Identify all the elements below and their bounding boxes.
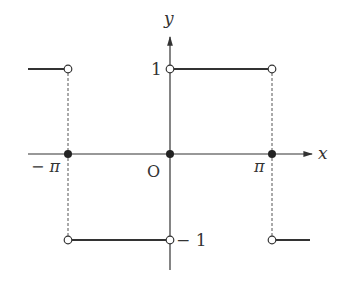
filled-point-pi-0 [268,150,276,158]
open-point-neg-pi-1 [64,65,72,73]
open-point-pi-1 [268,65,276,73]
y-axis-label: y [163,8,174,28]
tick-label-neg-pi: − π [31,157,60,176]
tick-label-one: 1 [151,59,162,79]
x-axis-label: x [318,143,328,163]
open-point-0-1 [166,65,174,73]
step-function-diagram: y x O 1 − 1 − π π [0,0,345,286]
open-point-0-neg1 [166,236,174,244]
open-point-pi-neg1 [268,236,276,244]
origin-label: O [147,162,160,181]
open-point-neg-pi-neg1 [64,236,72,244]
filled-point-origin [166,150,174,158]
tick-label-pi: π [253,157,265,176]
filled-point-neg-pi-0 [64,150,72,158]
tick-label-neg-one: − 1 [176,230,206,250]
